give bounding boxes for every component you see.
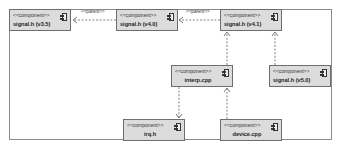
component-name: signal.h (v4.1): [224, 21, 261, 27]
component-signal-h-v35[interactable]: <<component>> signal.h (v3.5): [9, 9, 71, 31]
component-signal-h-v41[interactable]: <<component>> signal.h (v4.1): [220, 9, 282, 31]
stereotype-label: <<component>>: [224, 122, 260, 128]
component-name: irq.h: [124, 131, 176, 137]
edge-label-parent: <<parent>>: [186, 9, 210, 14]
component-name: device.cpp: [221, 131, 273, 137]
component-name: signal.h (v5.0): [273, 77, 310, 83]
component-name: signal.h (v4.0): [120, 21, 157, 27]
component-icon: [322, 69, 327, 77]
stereotype-label: <<component>>: [224, 12, 260, 18]
component-icon: [273, 13, 278, 21]
component-device-cpp[interactable]: <<component>> device.cpp: [220, 119, 282, 141]
component-interp-cpp[interactable]: <<component>> interp.cpp: [171, 65, 233, 87]
component-icon: [273, 123, 278, 131]
component-icon: [169, 13, 174, 21]
component-name: signal.h (v3.5): [13, 21, 50, 27]
component-irq-h[interactable]: <<component>> irq.h: [123, 119, 185, 141]
component-icon: [176, 123, 181, 131]
stereotype-label: <<component>>: [120, 12, 156, 18]
stereotype-label: <<component>>: [175, 68, 211, 74]
component-signal-h-v50[interactable]: <<component>> signal.h (v5.0): [269, 65, 331, 87]
component-signal-h-v40[interactable]: <<component>> signal.h (v4.0): [116, 9, 178, 31]
stereotype-label: <<component>>: [127, 122, 163, 128]
component-name: interp.cpp: [172, 77, 224, 83]
edge-label-parent: <<parent>>: [81, 9, 105, 14]
stereotype-label: <<component>>: [273, 68, 309, 74]
component-icon: [62, 13, 67, 21]
component-icon: [224, 69, 229, 77]
stereotype-label: <<component>>: [13, 12, 49, 18]
